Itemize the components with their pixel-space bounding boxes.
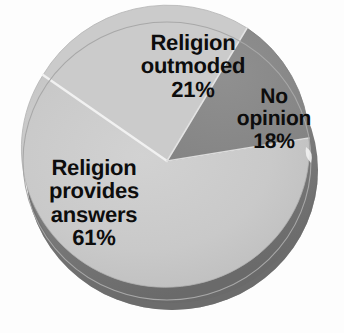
slice-label-no-opinion: No opinion 18%: [224, 86, 324, 153]
pie-chart-figure: Religion outmoded 21% No opinion 18% Rel…: [0, 0, 344, 333]
slice-label-religion-provides-answers: Religion provides answers 61%: [26, 156, 162, 249]
